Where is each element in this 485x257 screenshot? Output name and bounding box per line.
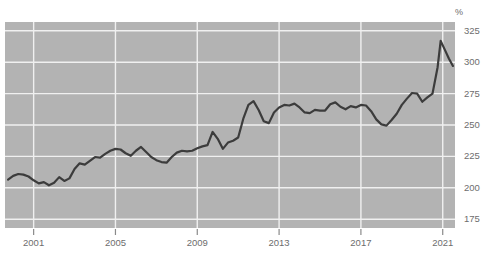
- y-axis-tick-label: 325: [464, 25, 480, 36]
- x-axis-tick-label: 2017: [341, 237, 381, 248]
- y-axis-tick-label: 250: [464, 119, 480, 130]
- x-axis-tick-label: 2001: [14, 237, 54, 248]
- x-axis-tick-label: 2009: [177, 237, 217, 248]
- line-chart: % 175200225250275300325 2001200520092013…: [0, 0, 485, 257]
- chart-plot-area: [0, 0, 485, 257]
- y-axis-tick-label: 300: [464, 56, 480, 67]
- x-axis-tick-label: 2005: [95, 237, 135, 248]
- x-axis-tick-label: 2021: [423, 237, 463, 248]
- x-axis-tick-label: 2013: [259, 237, 299, 248]
- y-axis-tick-label: 225: [464, 150, 480, 161]
- y-axis-unit-label: %: [455, 7, 463, 17]
- y-axis-tick-label: 175: [464, 213, 480, 224]
- y-axis-tick-label: 275: [464, 88, 480, 99]
- y-axis-tick-label: 200: [464, 182, 480, 193]
- x-axis-tick-marks: [34, 229, 443, 235]
